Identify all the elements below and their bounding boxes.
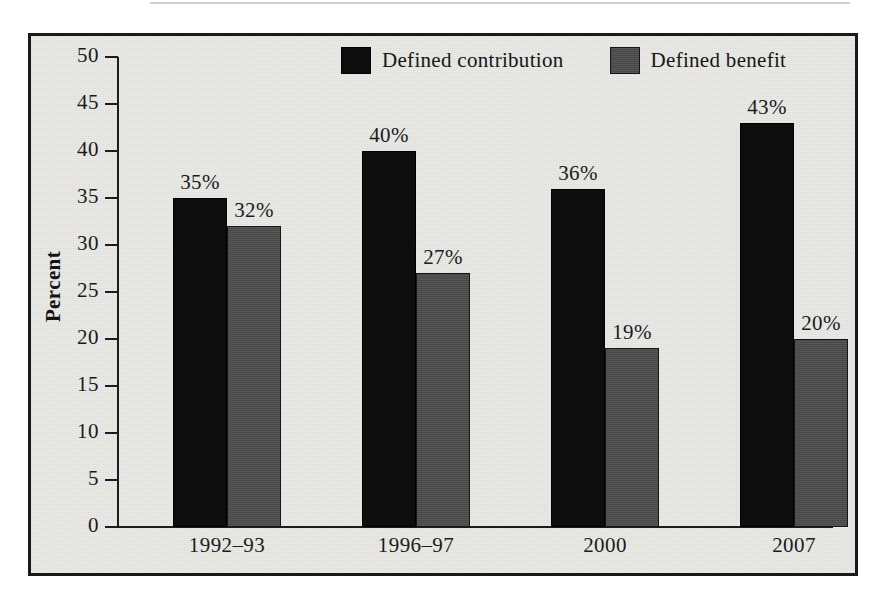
y-axis-tick (105, 103, 118, 105)
bar-value-label: 20% (782, 311, 860, 336)
y-axis-tick-label: 30 (31, 231, 99, 256)
y-axis-tick-label: 35 (31, 184, 99, 209)
bar-value-label: 32% (215, 198, 293, 223)
bar-value-label: 40% (350, 123, 428, 148)
y-axis-tick-label: 5 (31, 466, 99, 491)
y-axis-tick-label: 15 (31, 372, 99, 397)
y-axis-tick-label: 40 (31, 137, 99, 162)
bar-defined-contribution[interactable] (362, 151, 416, 527)
y-axis-tick (105, 526, 118, 528)
plot-area: Percent 50454035302520151050 1992–931996… (31, 36, 855, 573)
bar-defined-benefit[interactable] (416, 273, 470, 527)
x-axis-tick-label: 1996–97 (336, 533, 496, 558)
x-axis-tick-label: 2007 (714, 533, 874, 558)
y-axis-tick (105, 479, 118, 481)
bar-defined-benefit[interactable] (794, 339, 848, 527)
bar-value-label: 43% (728, 95, 806, 120)
y-axis-tick (105, 338, 118, 340)
x-axis-tick-label: 2000 (525, 533, 685, 558)
y-axis-tick (105, 150, 118, 152)
bar-defined-contribution[interactable] (173, 198, 227, 527)
y-axis-tick-label: 20 (31, 325, 99, 350)
figure-frame: Defined contribution Defined benefit Per… (28, 33, 858, 576)
bar-defined-benefit[interactable] (227, 226, 281, 527)
y-axis-tick (105, 385, 118, 387)
y-axis-tick-label: 0 (31, 513, 99, 538)
bar-value-label: 35% (161, 170, 239, 195)
bar-value-label: 36% (539, 161, 617, 186)
y-axis-tick (105, 197, 118, 199)
y-axis-tick-label: 25 (31, 278, 99, 303)
y-axis-tick (105, 56, 118, 58)
bar-value-label: 19% (593, 320, 671, 345)
y-axis-tick (105, 432, 118, 434)
y-axis-tick-label: 10 (31, 419, 99, 444)
y-axis-tick (105, 291, 118, 293)
top-divider-rule (150, 2, 850, 4)
bar-value-label: 27% (404, 245, 482, 270)
y-axis-tick (105, 244, 118, 246)
y-axis-tick-label: 45 (31, 90, 99, 115)
bar-defined-contribution[interactable] (551, 189, 605, 527)
y-axis-tick-label: 50 (31, 43, 99, 68)
x-axis-tick-label: 1992–93 (147, 533, 307, 558)
bar-defined-benefit[interactable] (605, 348, 659, 527)
chart-page: Defined contribution Defined benefit Per… (0, 0, 887, 605)
